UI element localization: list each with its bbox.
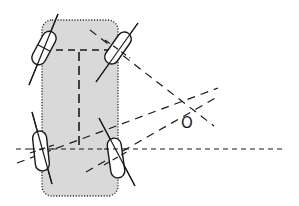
steering-diagram: O [0, 0, 299, 206]
turning-center-label: O [181, 114, 193, 132]
